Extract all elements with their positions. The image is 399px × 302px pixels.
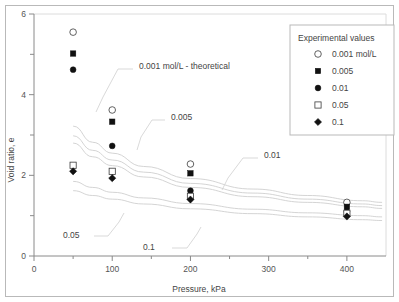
legend: Experimental values0.001 mol/L0.0050.010… (290, 25, 394, 135)
x-tick-label: 400 (340, 264, 354, 274)
data-point (70, 51, 75, 56)
legend-item-label: 0.005 (332, 66, 354, 76)
legend-title: Experimental values (298, 33, 375, 43)
y-tick-label: 6 (21, 9, 26, 19)
data-point (110, 119, 115, 124)
curve-annotation-2: 0.01 (264, 150, 281, 160)
data-point (187, 161, 194, 168)
void-ratio-pressure-scatter-chart: 0100200300400 0246 0.001 mol/L - theoret… (0, 0, 399, 302)
legend-marker-filled-square (315, 68, 320, 73)
y-tick-label: 2 (21, 170, 26, 180)
data-point (70, 67, 76, 73)
legend-item-3[interactable]: 0.05 (315, 100, 349, 110)
curve-annotation-0: 0.001 mol/L - theoretical (139, 61, 230, 71)
legend-marker-open-circle (315, 51, 322, 58)
legend-item-label: 0.05 (332, 100, 349, 110)
legend-item-label: 0.001 mol/L (332, 49, 377, 59)
y-tick-label: 0 (21, 251, 26, 261)
curve-annotation-3: 0.05 (63, 230, 80, 240)
data-point (109, 107, 116, 114)
legend-marker-filled-circle (315, 85, 321, 91)
x-tick-label: 200 (183, 264, 197, 274)
x-tick-label: 100 (105, 264, 119, 274)
data-point (109, 168, 115, 174)
data-point (70, 29, 77, 36)
y-axis-title: Void ratio, e (6, 137, 16, 182)
chart-container: 0100200300400 0246 0.001 mol/L - theoret… (0, 0, 399, 302)
curve-annotation-1: 0.005 (171, 112, 193, 122)
x-tick-label: 300 (262, 264, 276, 274)
legend-item-label: 0.01 (332, 83, 349, 93)
legend-item-label: 0.1 (332, 117, 344, 127)
legend-marker-open-square (315, 102, 321, 108)
data-point (188, 188, 194, 194)
data-point (109, 143, 115, 149)
curve-annotation-4: 0.1 (143, 242, 155, 252)
data-point (188, 171, 193, 176)
y-tick-label: 4 (21, 90, 26, 100)
x-axis-title: Pressure, kPa (172, 284, 226, 294)
x-tick-label: 0 (32, 264, 37, 274)
